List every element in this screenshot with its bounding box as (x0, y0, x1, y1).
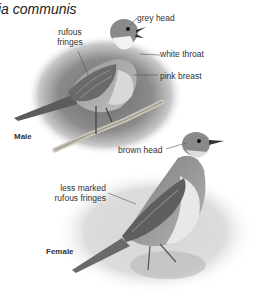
label-line: less marked (54, 183, 106, 193)
label-line: fringes (54, 37, 86, 47)
species-title: ia communis (0, 1, 77, 17)
label-brown-head: brown head (118, 145, 162, 155)
label-less-marked-rufous-fringes: less marked rufous fringes (54, 183, 106, 203)
label-white-throat: white throat (160, 49, 204, 59)
label-line: rufous (54, 27, 86, 37)
label-rufous-fringes: rufous fringes (54, 27, 86, 47)
female-label: Female (46, 247, 74, 256)
label-pink-breast: pink breast (160, 71, 202, 81)
label-grey-head: grey head (137, 13, 175, 23)
male-label: Male (14, 132, 32, 141)
label-line: rufous fringes (54, 193, 106, 203)
